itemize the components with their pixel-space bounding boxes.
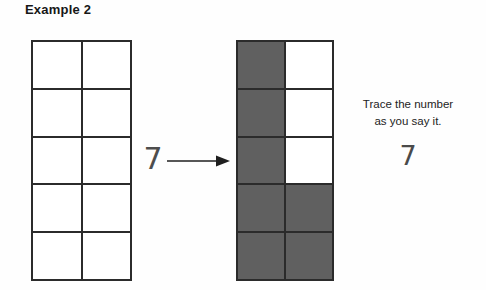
page-title: Example 2 [25, 2, 91, 17]
middle-numeral: 7 [140, 139, 166, 179]
instruction-line-1: Trace the number [363, 98, 453, 110]
trace-numeral: 7 [334, 136, 482, 176]
left-grid-cell-r5c2 [83, 233, 133, 281]
right-ten-frame-grid [236, 40, 334, 281]
instruction-line-2: as you say it. [334, 113, 482, 130]
right-grid-cell-r5c2 [286, 233, 334, 281]
right-grid-cell-r3c2 [286, 138, 334, 186]
worksheet-page: Example 2 7 Trace the number [0, 0, 486, 290]
right-grid-cell-r2c1 [238, 90, 286, 138]
right-grid-cell-r5c1 [238, 233, 286, 281]
left-grid-cell-r4c2 [83, 185, 133, 233]
right-grid-cell-r3c1 [238, 138, 286, 186]
left-grid-cell-r3c1 [33, 138, 83, 186]
right-arrow-icon [167, 150, 230, 172]
right-grid-cell-r4c2 [286, 185, 334, 233]
right-grid-cell-r4c1 [238, 185, 286, 233]
left-ten-frame-grid [31, 40, 132, 281]
right-grid-cell-r2c2 [286, 90, 334, 138]
right-grid-cell-r1c2 [286, 42, 334, 90]
instruction-text: Trace the number as you say it. [334, 96, 482, 130]
left-grid-cell-r3c2 [83, 138, 133, 186]
right-grid-cell-r1c1 [238, 42, 286, 90]
left-grid-cell-r2c2 [83, 90, 133, 138]
left-grid-cell-r1c1 [33, 42, 83, 90]
left-grid-cell-r1c2 [83, 42, 133, 90]
left-grid-cell-r5c1 [33, 233, 83, 281]
left-grid-cell-r2c1 [33, 90, 83, 138]
left-grid-cell-r4c1 [33, 185, 83, 233]
